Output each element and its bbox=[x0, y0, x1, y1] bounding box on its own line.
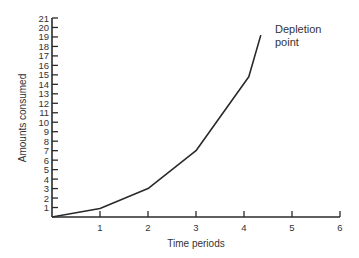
y-tick-label: 18 bbox=[38, 41, 49, 52]
x-tick-label: 1 bbox=[97, 222, 102, 233]
x-tick-label: 6 bbox=[337, 222, 342, 233]
y-tick-label: 15 bbox=[38, 69, 49, 80]
y-tick-label: 4 bbox=[44, 174, 49, 185]
y-tick-label: 19 bbox=[38, 31, 49, 42]
annotation-line-1: Depletion bbox=[275, 23, 321, 35]
annotation-line-2: point bbox=[275, 36, 299, 48]
y-tick-label: 6 bbox=[44, 155, 49, 166]
y-axis-label: Amounts consumed bbox=[17, 74, 28, 162]
y-tick-label: 14 bbox=[38, 79, 49, 90]
y-tick-label: 20 bbox=[38, 22, 49, 33]
x-tick-label: 4 bbox=[241, 222, 246, 233]
x-tick-label: 5 bbox=[289, 222, 294, 233]
y-axis-ticks: 123456789101112131415161718192021 bbox=[38, 13, 58, 214]
x-axis-ticks: 123456 bbox=[97, 211, 342, 233]
y-tick-label: 8 bbox=[44, 136, 49, 147]
depletion-point-annotation: Depletion point bbox=[275, 23, 325, 48]
y-tick-label: 7 bbox=[44, 145, 49, 156]
y-tick-label: 3 bbox=[44, 183, 49, 194]
y-tick-label: 9 bbox=[44, 126, 49, 137]
y-tick-label: 13 bbox=[38, 88, 49, 99]
y-tick-label: 17 bbox=[38, 50, 49, 61]
y-tick-label: 12 bbox=[38, 98, 49, 109]
y-tick-label: 21 bbox=[38, 13, 49, 24]
y-tick-label: 11 bbox=[39, 107, 49, 118]
y-tick-label: 16 bbox=[38, 60, 49, 71]
x-tick-label: 3 bbox=[193, 222, 198, 233]
y-tick-label: 2 bbox=[44, 193, 49, 204]
x-axis-label: Time periods bbox=[167, 238, 224, 249]
consumption-line bbox=[52, 35, 261, 217]
depletion-line-chart: 123456789101112131415161718192021 123456… bbox=[0, 0, 359, 258]
y-tick-label: 5 bbox=[44, 164, 49, 175]
x-tick-label: 2 bbox=[145, 222, 150, 233]
y-tick-label: 1 bbox=[44, 202, 49, 213]
y-tick-label: 10 bbox=[38, 117, 49, 128]
